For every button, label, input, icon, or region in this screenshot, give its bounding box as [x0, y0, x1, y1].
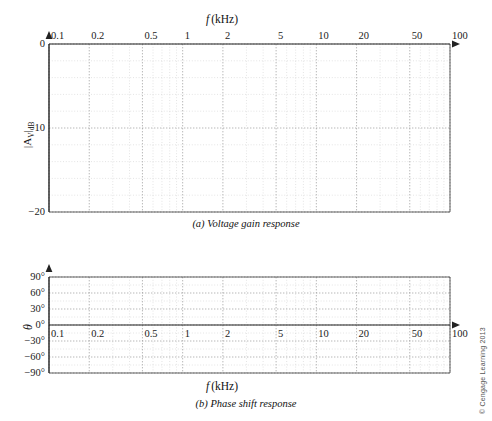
chart-b-caption-label: (b): [196, 398, 208, 409]
chart-b-xaxis-title: f(kHz): [206, 381, 238, 393]
chart-b-xtick-0.1: 0.1: [51, 329, 64, 340]
chart-b-xtick-50: 50: [412, 329, 423, 340]
chart-b-xtick-0.2: 0.2: [91, 329, 104, 340]
chart-a-xaxis-title-unit: (kHz): [211, 13, 238, 25]
chart-a-ytick-0: 0: [40, 39, 45, 50]
chart-b-xtick-1: 1: [185, 329, 190, 340]
figure-container: f(kHz) |AV|dB 0.10.20.5125102050100 0−10…: [0, 0, 492, 421]
chart-a-caption-label: (a): [192, 218, 204, 229]
chart-a-xtick-1: 1: [185, 31, 190, 42]
chart-a-grid: [49, 44, 450, 212]
chart-a-xaxis-arrow: [452, 41, 460, 48]
chart-b-yaxis-title: θ: [22, 324, 34, 330]
chart-b-yaxis-arrow: [46, 264, 53, 272]
chart-b-xtick-10: 10: [318, 329, 329, 340]
chart-a-caption-text: Voltage gain response: [207, 218, 299, 229]
chart-a-caption: (a) Voltage gain response: [0, 219, 492, 230]
chart-b-yaxis-title-symbol: θ: [21, 324, 35, 330]
chart-b-xtick-0.5: 0.5: [144, 329, 157, 340]
chart-a-xtick-100: 100: [452, 31, 468, 42]
chart-a-xtick-10: 10: [318, 31, 329, 42]
chart-axes: [46, 31, 460, 373]
chart-a-ytick-2: −20: [29, 207, 45, 218]
plot-graphics: [0, 0, 492, 421]
chart-b-ytick-2: 30°: [30, 304, 45, 315]
chart-a-xtick-5: 5: [278, 31, 283, 42]
chart-b-caption: (b) Phase shift response: [0, 399, 492, 410]
chart-a-xtick-20: 20: [359, 31, 370, 42]
chart-a-xtick-2: 2: [225, 31, 230, 42]
chart-b-xtick-5: 5: [278, 329, 283, 340]
chart-b-ytick-0: 90°: [30, 272, 45, 283]
chart-b-ytick-6: −90°: [24, 368, 45, 379]
chart-b-xtick-20: 20: [359, 329, 370, 340]
chart-a-xtick-0.1: 0.1: [51, 31, 64, 42]
chart-a-xaxis-title-symbol: f: [206, 13, 209, 25]
copyright-credit: © Cengage Learning 2013: [479, 327, 486, 414]
chart-a-xtick-0.2: 0.2: [91, 31, 104, 42]
chart-a-ytick-1: −10: [29, 123, 45, 134]
chart-a-yaxis-title-pre: |A: [21, 138, 33, 148]
chart-a-xtick-0.5: 0.5: [144, 31, 157, 42]
chart-b-ytick-5: −60°: [24, 352, 45, 363]
chart-b-ytick-1: 60°: [30, 288, 45, 299]
chart-b-caption-text: Phase shift response: [210, 398, 296, 409]
chart-b-ytick-3: 0°: [36, 320, 45, 331]
chart-b-xaxis-title-symbol: f: [206, 380, 209, 392]
chart-b-ytick-4: −30°: [24, 336, 45, 347]
chart-b-xaxis-title-unit: (kHz): [211, 380, 238, 392]
chart-b-xtick-100: 100: [452, 329, 468, 340]
chart-a-xaxis-title: f(kHz): [206, 14, 238, 26]
chart-b-xtick-2: 2: [225, 329, 230, 340]
chart-a-xtick-50: 50: [412, 31, 423, 42]
